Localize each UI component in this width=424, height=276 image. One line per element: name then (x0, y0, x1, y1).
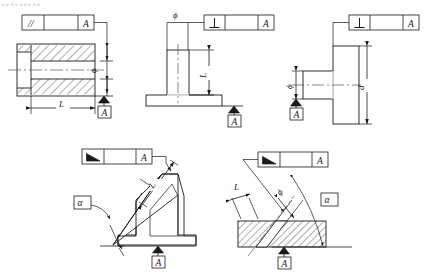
datum-triangle (153, 246, 164, 253)
datum-letter: A (281, 259, 288, 269)
cap-hatch-b (18, 88, 30, 95)
figure-angularity-bracket: A (74, 149, 196, 268)
boss-height-label: L (198, 73, 208, 79)
dim-line-offset-L (230, 194, 250, 200)
figure-perpendicularity-shaft: A ϕ d (284, 15, 419, 124)
length-label: L (58, 99, 64, 109)
datum-symbol-A-fig2[interactable]: A (222, 106, 243, 127)
datum-letter: A (155, 258, 162, 268)
base-plate-outline (146, 95, 222, 106)
section-hatch-lower (31, 79, 94, 95)
technical-drawing-svg: // A (0, 0, 424, 276)
ext-line-offset-b (249, 198, 258, 219)
datum-reference: A (407, 19, 414, 29)
datum-symbol-A-fig5[interactable]: A (278, 247, 291, 269)
datum-letter: A (101, 108, 108, 118)
datum-reference: A (140, 153, 147, 163)
control-frame-perpendicularity-2[interactable]: A (349, 15, 419, 30)
right-slope-edge (178, 174, 184, 196)
leader-line (152, 157, 166, 164)
datum-symbol-A-fig3[interactable]: A (290, 99, 303, 120)
control-frame-perpendicularity-1[interactable]: A (204, 15, 274, 30)
figure-angularity-hole: A ϕ L α (230, 152, 352, 269)
ext-line-offset-a (232, 198, 241, 219)
angle-annotation-alpha[interactable]: α (74, 196, 110, 219)
datum-letter: A (293, 110, 300, 120)
control-frame-parallelism[interactable]: // A (22, 15, 94, 30)
alpha-leader (91, 205, 110, 219)
datum-reference: A (316, 156, 323, 166)
datum-symbol-A-fig1[interactable]: A (95, 96, 113, 118)
datum-reference: A (262, 19, 269, 29)
section-hatch-upper (31, 46, 94, 62)
leader-line (333, 23, 349, 47)
leader-line (94, 23, 107, 45)
angle-annotation-alpha-2[interactable]: α (321, 193, 338, 206)
drawing-canvas: 。。。。。。。。。 (0, 0, 424, 276)
figure-perpendicularity-boss: A ϕ L (146, 10, 274, 127)
shaft-diameter-label: ϕ (284, 84, 294, 89)
control-frame-angularity-1[interactable]: A (82, 149, 152, 164)
offset-length-label: L (233, 182, 239, 192)
figure-parallelism-bore: // A (8, 15, 113, 118)
datum-letter: A (231, 117, 238, 127)
datum-triangle (279, 247, 290, 254)
control-frame-angularity-2[interactable]: A (258, 152, 328, 167)
bore-diameter-label: ϕ (88, 68, 98, 73)
cap-hatch-a (18, 46, 30, 53)
flange-diameter-label: d (356, 85, 366, 90)
datum-reference: A (82, 19, 89, 29)
datum-triangle (229, 106, 240, 113)
angle-tail (119, 248, 124, 256)
datum-triangle (99, 96, 110, 103)
datum-symbol-A-fig4[interactable]: A (152, 246, 165, 268)
boss-diameter-label: ϕ (173, 10, 178, 20)
datum-triangle (291, 99, 302, 106)
